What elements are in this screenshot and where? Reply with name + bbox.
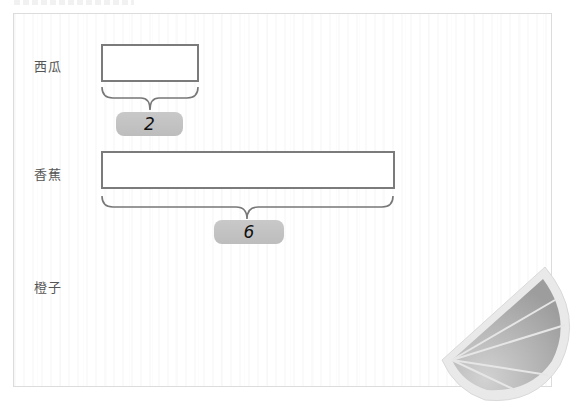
row-label-orange: 橙子: [34, 277, 62, 296]
orange-slice-icon: [440, 265, 580, 405]
count-pill-banana: 6: [214, 220, 284, 244]
bar-watermelon: [101, 44, 199, 82]
brace-banana: [101, 195, 395, 221]
row-label-banana: 香蕉: [34, 164, 62, 183]
row-label-watermelon: 西瓜: [34, 56, 62, 75]
count-watermelon: 2: [144, 114, 155, 134]
count-banana: 6: [244, 222, 255, 242]
bar-banana: [101, 151, 395, 189]
clipped-header-text: [14, 0, 134, 5]
brace-watermelon: [101, 86, 199, 112]
count-pill-watermelon: 2: [116, 112, 183, 136]
